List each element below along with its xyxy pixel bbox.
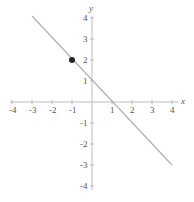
x-tick-label: -4 (9, 105, 17, 115)
y-tick-label: 1 (83, 76, 88, 86)
x-tick-label: 2 (130, 105, 135, 115)
coordinate-plane: -4 -3 -2 -1 1 2 3 4 4 3 2 1 -1 -2 -3 -4 … (0, 0, 194, 202)
line-series (32, 16, 172, 165)
y-tick-label: -4 (80, 181, 88, 191)
x-tick-label: 3 (150, 105, 155, 115)
y-tick-label: -3 (80, 160, 88, 170)
data-point (69, 57, 75, 63)
x-tick-label: 1 (110, 105, 115, 115)
y-tick-label: 4 (83, 13, 88, 23)
x-tick-label: -2 (49, 105, 57, 115)
x-axis-label: x (180, 96, 185, 106)
y-tick-label: -2 (80, 139, 88, 149)
y-tick-label: 3 (83, 34, 88, 44)
x-tick-label: 4 (170, 105, 175, 115)
x-tick-label: -3 (29, 105, 37, 115)
y-axis-label: y (88, 3, 93, 13)
x-tick-label: -1 (69, 105, 77, 115)
y-tick-label: -1 (80, 118, 88, 128)
y-tick-label: 2 (83, 55, 88, 65)
